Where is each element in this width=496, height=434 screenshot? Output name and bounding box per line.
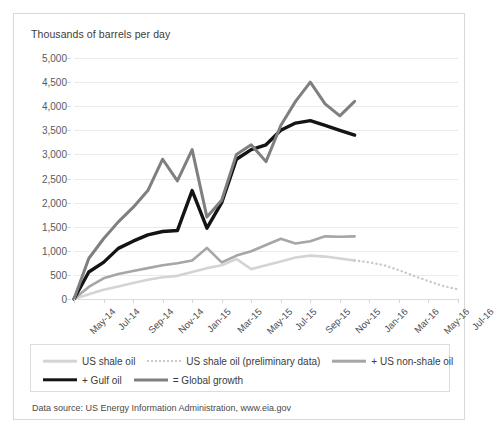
legend-row: US shale oilUS shale oil (preliminary da…	[43, 353, 465, 369]
legend-item[interactable]: + Gulf oil	[43, 375, 122, 386]
legend: US shale oilUS shale oil (preliminary da…	[30, 344, 450, 392]
x-tick-mark	[399, 299, 400, 303]
x-tick-mark	[251, 299, 252, 303]
legend-item[interactable]: + US non-shale oil	[332, 356, 453, 367]
legend-line-swatch	[43, 375, 77, 385]
legend-item[interactable]: US shale oil (preliminary data)	[147, 356, 320, 367]
legend-line-swatch	[43, 356, 77, 366]
x-tick-mark	[340, 299, 341, 303]
data-series-line	[355, 260, 458, 289]
chart-card: Thousands of barrels per day 05001,0001,…	[13, 13, 465, 420]
x-tick-mark	[281, 299, 282, 303]
legend-item-label: US shale oil (preliminary data)	[186, 356, 320, 367]
x-tick-label: Jul-16	[470, 306, 496, 332]
data-series-line	[74, 256, 355, 299]
legend-line-swatch	[332, 356, 366, 366]
x-tick-mark	[369, 299, 370, 303]
legend-line-swatch	[134, 375, 168, 385]
x-tick-mark	[428, 299, 429, 303]
legend-item-label: US shale oil	[82, 356, 135, 367]
x-tick-mark	[133, 299, 134, 303]
legend-item[interactable]: = Global growth	[134, 375, 243, 386]
source-note: Data source: US Energy Information Admin…	[32, 403, 291, 413]
x-tick-mark	[163, 299, 164, 303]
x-tick-mark	[458, 299, 459, 303]
x-tick-mark	[192, 299, 193, 303]
legend-item-label: + US non-shale oil	[371, 356, 453, 367]
x-tick-mark	[74, 299, 75, 303]
legend-line-swatch	[147, 356, 181, 366]
legend-item-label: = Global growth	[173, 375, 243, 386]
legend-item-label: + Gulf oil	[82, 375, 122, 386]
x-tick-mark	[310, 299, 311, 303]
x-tick-mark	[222, 299, 223, 303]
legend-item[interactable]: US shale oil	[43, 356, 135, 367]
legend-row: + Gulf oil= Global growth	[43, 372, 255, 388]
x-tick-mark	[104, 299, 105, 303]
